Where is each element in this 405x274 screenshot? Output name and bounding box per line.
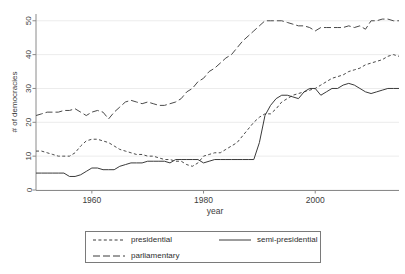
- x-tick-label: 1980: [194, 195, 213, 205]
- legend-label: parliamentary: [131, 252, 179, 260]
- legend-swatch-short-dash-icon: [92, 236, 126, 244]
- y-tick-label: 40: [25, 50, 34, 59]
- legend-swatch-solid-icon: [218, 236, 252, 244]
- y-axis-ticks: [33, 21, 37, 190]
- series-line-parliamentary: [36, 19, 399, 119]
- data-series: [36, 19, 399, 176]
- series-line-presidential: [36, 55, 399, 167]
- y-tick-label: 20: [25, 117, 34, 126]
- x-tick-label: 2000: [306, 195, 325, 205]
- y-tick-label: 10: [25, 151, 34, 160]
- legend-swatch-long-dash-icon: [92, 252, 126, 260]
- legend-label: semi-presidential: [257, 236, 317, 244]
- legend-item-presidential[interactable]: presidential: [86, 236, 212, 244]
- y-tick-label: 50: [25, 16, 34, 25]
- gridlines: [36, 21, 399, 190]
- legend-item-parliamentary[interactable]: parliamentary: [86, 252, 212, 260]
- y-tick-label: 0: [25, 187, 34, 192]
- series-line-semi-presidential: [36, 83, 399, 176]
- legend-label: presidential: [131, 236, 172, 244]
- x-axis-label: year: [207, 206, 224, 216]
- chart-legend: presidentialsemi-presidentialparliamenta…: [85, 231, 321, 263]
- x-tick-label: 1960: [82, 195, 101, 205]
- legend-item-semi-presidential[interactable]: semi-presidential: [212, 236, 322, 244]
- x-axis-tick-labels: 196019802000: [82, 195, 325, 205]
- y-tick-label: 30: [25, 83, 34, 92]
- y-axis-tick-labels: 01020304050: [25, 16, 34, 192]
- chart-figure: # of democracies 01020304050 19601980200…: [0, 0, 405, 274]
